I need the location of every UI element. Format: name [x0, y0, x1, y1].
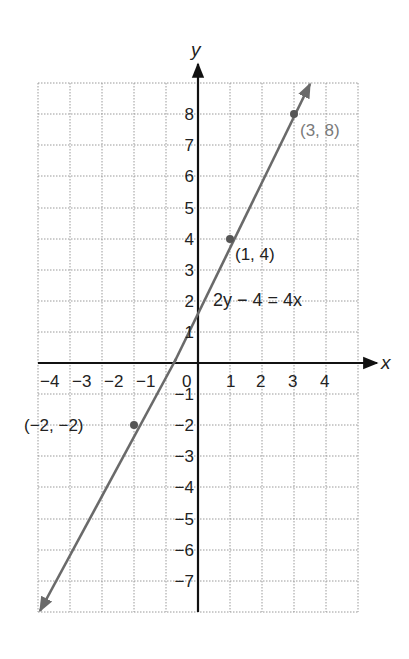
- svg-text:−1: −1: [175, 385, 194, 404]
- y-tick-labels: 8 7 6 5 4 3 2 1 −1 −2 −3 −4 −5 −6 −7: [175, 105, 194, 591]
- point-label-m2-m2: (−2, −2): [24, 416, 84, 435]
- svg-text:5: 5: [185, 199, 194, 218]
- svg-text:4: 4: [320, 372, 329, 391]
- svg-text:−1: −1: [136, 372, 155, 391]
- point-label-3-8: (3, 8): [300, 121, 340, 140]
- svg-text:8: 8: [185, 105, 194, 124]
- svg-text:4: 4: [185, 230, 194, 249]
- svg-text:−7: −7: [175, 572, 194, 591]
- svg-text:3: 3: [288, 372, 297, 391]
- svg-text:−6: −6: [175, 541, 194, 560]
- point-1-4: [226, 235, 234, 243]
- svg-text:7: 7: [185, 136, 194, 155]
- svg-text:3: 3: [185, 261, 194, 280]
- svg-text:6: 6: [185, 167, 194, 186]
- point-label-1-4: (1, 4): [235, 245, 275, 264]
- svg-text:−2: −2: [104, 372, 123, 391]
- svg-text:−4: −4: [175, 478, 194, 497]
- svg-text:2: 2: [256, 372, 265, 391]
- point-m2-m2: [130, 421, 138, 429]
- svg-text:−3: −3: [72, 372, 91, 391]
- x-axis-label: x: [380, 352, 392, 373]
- svg-text:1: 1: [226, 372, 235, 391]
- plotted-line-lower: [40, 359, 176, 611]
- coordinate-plane: x y (3, 8) (1, 4) (−2, −2) 2y − 4 = 4x −…: [0, 0, 409, 659]
- plotted-line: [174, 84, 310, 363]
- equation-label: 2y − 4 = 4x: [213, 290, 302, 310]
- svg-text:−3: −3: [175, 447, 194, 466]
- svg-text:−4: −4: [40, 372, 59, 391]
- y-axis-label: y: [189, 39, 202, 60]
- point-3-8: [290, 110, 298, 118]
- svg-text:2: 2: [185, 292, 194, 311]
- svg-text:1: 1: [185, 323, 194, 342]
- svg-text:−2: −2: [175, 416, 194, 435]
- svg-text:−5: −5: [175, 510, 194, 529]
